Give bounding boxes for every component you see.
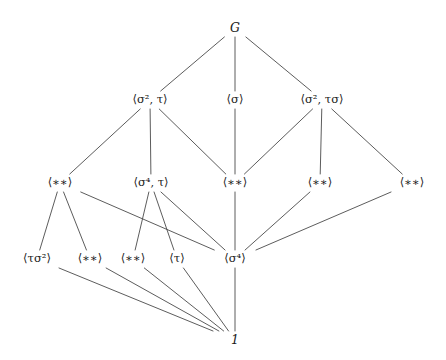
subgroup-lattice-figure: { "figure": { "kind": "subgroup-lattice-… [0,0,446,360]
lattice-edge-B1-C2 [64,192,87,250]
lattice-edge-A1-B1 [70,109,140,174]
node-sigma4-tau: ⟨σ⁴, τ⟩ [131,176,170,190]
node-row3-3: ⟨∗∗⟩ [119,252,148,266]
lattice-edge-A3-B4 [320,109,322,174]
node-row3-3-label: ⟨∗∗⟩ [121,251,146,265]
node-identity-label: 1 [231,332,239,347]
node-row2-4-label: ⟨∗∗⟩ [308,175,333,189]
node-row2-4: ⟨∗∗⟩ [306,176,335,190]
node-sigma2-tau-label: ⟨σ², τ⟩ [132,92,167,106]
node-row2-1: ⟨∗∗⟩ [46,176,75,190]
node-sigma2-tausigma: ⟨σ², τσ⟩ [299,93,346,107]
lattice-edge-C2-ONE [106,268,219,331]
node-row3-2: ⟨∗∗⟩ [76,252,105,266]
lattice-edge-B4-C5 [245,192,310,250]
lattice-edge-A3-B5 [332,109,402,174]
node-row2-5-label: ⟨∗∗⟩ [400,175,425,189]
node-sigma: ⟨σ⟩ [225,93,246,107]
lattice-edge-G-A1 [161,37,225,91]
node-identity: 1 [229,333,241,348]
node-sigma2-tausigma-label: ⟨σ², τσ⟩ [301,92,344,106]
lattice-edge-B1-C5 [81,192,215,250]
node-row2-3: ⟨∗∗⟩ [221,176,250,190]
lattice-edge-A1-B2 [150,109,151,174]
lattice-edge-A3-B3 [244,109,312,174]
node-tau: ⟨τ⟩ [167,252,186,266]
node-G-label: G [230,20,240,35]
node-sigma2-tau: ⟨σ², τ⟩ [130,93,169,107]
node-row3-2-label: ⟨∗∗⟩ [78,251,103,265]
node-sigma4-tau-label: ⟨σ⁴, τ⟩ [133,175,168,189]
node-G: G [228,21,242,36]
node-row2-5: ⟨∗∗⟩ [398,176,427,190]
node-tausigma2-label: ⟨τσ²⟩ [23,251,51,265]
node-row2-3-label: ⟨∗∗⟩ [223,175,248,189]
lattice-edge-G-A3 [246,37,311,91]
lattice-edge-A1-B3 [159,109,226,174]
lattice-edge-C3-ONE [144,268,223,331]
lattice-edge-B5-C5 [256,192,391,250]
node-tausigma2: ⟨τσ²⟩ [21,252,53,266]
node-tau-label: ⟨τ⟩ [169,251,184,265]
node-sigma-label: ⟨σ⟩ [227,92,244,106]
node-sigma4: ⟨σ⁴⟩ [222,252,247,266]
node-row2-1-label: ⟨∗∗⟩ [48,175,73,189]
lattice-edge-B1-C1 [40,192,58,250]
node-sigma4-label: ⟨σ⁴⟩ [224,251,245,265]
